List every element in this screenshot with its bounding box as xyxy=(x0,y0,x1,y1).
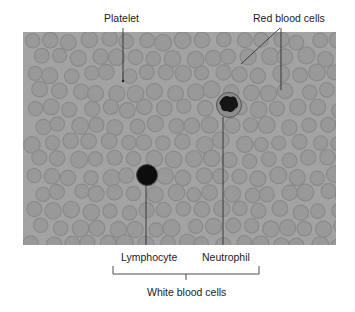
label-platelet: Platelet xyxy=(104,12,139,24)
label-lymphocyte: Lymphocyte xyxy=(121,251,177,263)
neutrophil-cell xyxy=(217,93,242,118)
wbc-bracket xyxy=(113,266,259,280)
platelet-dot xyxy=(122,80,124,82)
label-red-blood-cells: Red blood cells xyxy=(253,12,325,24)
lymphocyte-cell xyxy=(137,165,158,186)
annotation-layer xyxy=(0,0,355,312)
label-neutrophil: Neutrophil xyxy=(202,251,250,263)
label-white-blood-cells: White blood cells xyxy=(147,286,226,298)
rbc-leader-line-1 xyxy=(241,28,280,64)
